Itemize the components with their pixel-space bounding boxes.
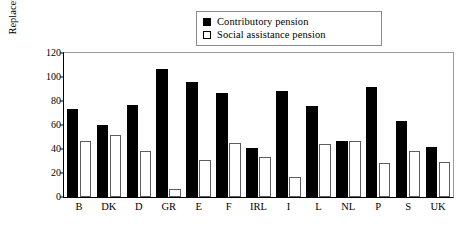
- bar-group: [216, 53, 241, 197]
- bar-group: [246, 53, 271, 197]
- bar-d-contributory: [127, 105, 139, 197]
- bar-group: [426, 53, 451, 197]
- bar-uk-social-assistance: [439, 162, 451, 197]
- y-axis-tick-mark: [60, 77, 64, 78]
- bar-i-contributory: [276, 91, 288, 197]
- x-axis-label-p: P: [375, 201, 381, 213]
- bar-l-social-assistance: [319, 144, 331, 197]
- y-axis-tick-mark: [60, 53, 64, 54]
- bar-group: [396, 53, 421, 197]
- bar-s-social-assistance: [409, 151, 421, 197]
- x-axis-label-b: B: [75, 201, 82, 213]
- hollow-square-icon: [203, 31, 211, 39]
- bar-group: [336, 53, 361, 197]
- x-axis-label-nl: NL: [341, 201, 355, 213]
- bar-dk-contributory: [97, 125, 109, 197]
- bar-group: [366, 53, 391, 197]
- x-axis-label-irl: IRL: [250, 201, 267, 213]
- bar-group: [156, 53, 181, 197]
- bar-b-social-assistance: [80, 141, 92, 197]
- legend-label-contributory-pension: Contributory pension: [217, 16, 309, 28]
- x-axis-label-gr: GR: [161, 201, 176, 213]
- bar-group: [186, 53, 211, 197]
- x-axis-label-d: D: [135, 201, 143, 213]
- bar-f-social-assistance: [229, 143, 241, 197]
- bar-d-social-assistance: [140, 151, 152, 197]
- bar-uk-contributory: [426, 147, 438, 197]
- legend-label-social-assistance-pension: Social assistance pension: [217, 29, 326, 41]
- bar-group: [276, 53, 301, 197]
- x-axis-label-i: I: [287, 201, 291, 213]
- chart-figure: Contributory pension Social assistance p…: [0, 0, 460, 228]
- filled-square-icon: [203, 18, 211, 26]
- x-axis-label-s: S: [405, 201, 411, 213]
- x-axis-label-dk: DK: [101, 201, 116, 213]
- bar-f-contributory: [216, 93, 228, 197]
- bar-gr-social-assistance: [169, 189, 181, 197]
- x-axis-label-f: F: [226, 201, 232, 213]
- bar-b-contributory: [67, 109, 79, 197]
- x-axis-label-uk: UK: [430, 201, 445, 213]
- bar-irl-social-assistance: [259, 157, 271, 197]
- y-axis-tick-mark: [60, 125, 64, 126]
- bar-group: [97, 53, 122, 197]
- bar-gr-contributory: [156, 69, 168, 197]
- legend-item-contributory-pension: Contributory pension: [203, 15, 375, 28]
- bar-group: [67, 53, 92, 197]
- y-axis-tick-label: 100: [46, 72, 61, 82]
- x-axis-label-l: L: [315, 201, 321, 213]
- bar-nl-social-assistance: [349, 141, 361, 197]
- chart-legend: Contributory pension Social assistance p…: [196, 11, 382, 46]
- bar-dk-social-assistance: [110, 135, 122, 197]
- bar-e-social-assistance: [199, 160, 211, 197]
- bar-p-social-assistance: [379, 163, 391, 197]
- y-axis-title: Replacement rate: [4, 0, 22, 70]
- plot-area: 020406080100120 BDKDGREFIRLILNLPSUK: [63, 52, 454, 198]
- bar-l-contributory: [306, 106, 318, 197]
- x-axis-label-e: E: [195, 201, 201, 213]
- y-axis-tick-label: 120: [46, 48, 61, 58]
- y-axis-tick-mark: [60, 197, 64, 198]
- bar-i-social-assistance: [289, 177, 301, 197]
- legend-item-social-assistance-pension: Social assistance pension: [203, 28, 375, 41]
- bar-e-contributory: [186, 82, 198, 197]
- bar-nl-contributory: [336, 141, 348, 197]
- bar-p-contributory: [366, 87, 378, 197]
- bar-group: [306, 53, 331, 197]
- bar-group: [127, 53, 152, 197]
- bar-irl-contributory: [246, 148, 258, 197]
- y-axis-tick-mark: [60, 173, 64, 174]
- y-axis-tick-mark: [60, 149, 64, 150]
- bar-s-contributory: [396, 121, 408, 197]
- y-axis-tick-mark: [60, 101, 64, 102]
